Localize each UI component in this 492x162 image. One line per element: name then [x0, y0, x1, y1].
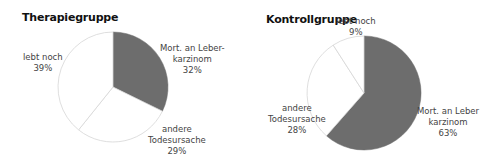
label-text: lebt noch: [23, 52, 63, 63]
label-text: andere: [268, 103, 326, 114]
label-text: Todesursache: [148, 135, 206, 146]
label-percent: 63%: [417, 128, 479, 139]
label-percent: 9%: [336, 27, 376, 38]
chart-kontrollgruppe: Kontrollgruppe lebt noch 9% andere Todes…: [246, 0, 492, 162]
label-lebt: lebt noch 39%: [23, 52, 63, 74]
label-text: karzinom: [160, 54, 225, 65]
label-text: Mort. an Leber: [417, 106, 479, 117]
label-percent: 29%: [148, 146, 206, 157]
label-text: Mort. an Leber-: [160, 43, 225, 54]
label-andere: andere Todesursache 29%: [148, 124, 206, 157]
label-lebt: lebt noch 9%: [336, 16, 376, 38]
pie-chart: [0, 0, 246, 162]
label-text: karzinom: [417, 117, 479, 128]
label-andere: andere Todesursache 28%: [268, 103, 326, 136]
label-mort: Mort. an Leber karzinom 63%: [417, 106, 479, 139]
label-percent: 28%: [268, 125, 326, 136]
label-text: lebt noch: [336, 16, 376, 27]
label-mort: Mort. an Leber- karzinom 32%: [160, 43, 225, 76]
chart-therapiegruppe: Therapiegruppe Mort. an Leber- karzinom …: [0, 0, 246, 162]
label-percent: 32%: [160, 65, 225, 76]
label-text: Todesursache: [268, 114, 326, 125]
label-percent: 39%: [23, 63, 63, 74]
label-text: andere: [148, 124, 206, 135]
